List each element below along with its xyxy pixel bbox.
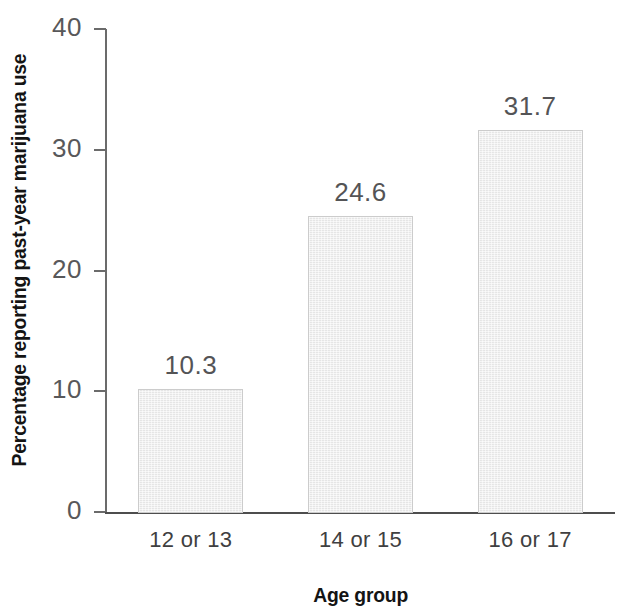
bar[interactable] — [308, 216, 413, 513]
y-axis-tick-label: 40 — [36, 12, 82, 43]
bar[interactable] — [478, 130, 583, 513]
plot-area: 10.324.631.7 — [106, 29, 615, 513]
y-axis-title: Percentage reporting past-year marijuana… — [0, 0, 38, 520]
x-axis-category-label: 12 or 13 — [106, 527, 276, 553]
x-axis-title-text: Age group — [313, 583, 408, 607]
bar-value-label: 31.7 — [478, 91, 583, 122]
y-axis-tick-label: 30 — [36, 133, 82, 164]
bar-value-label: 24.6 — [308, 177, 413, 208]
y-axis-tick-label: 0 — [36, 495, 82, 526]
x-axis-title: Age group — [106, 583, 615, 607]
y-axis-title-text: Percentage reporting past-year marijuana… — [7, 54, 31, 467]
x-axis-category-label: 14 or 15 — [276, 527, 446, 553]
y-axis-tick-label: 20 — [36, 254, 82, 285]
y-axis-tick-label: 10 — [36, 374, 82, 405]
x-axis-category-label: 16 or 17 — [445, 527, 615, 553]
bar[interactable] — [138, 389, 243, 513]
bar-value-label: 10.3 — [138, 350, 243, 381]
bar-chart: Percentage reporting past-year marijuana… — [0, 0, 627, 613]
